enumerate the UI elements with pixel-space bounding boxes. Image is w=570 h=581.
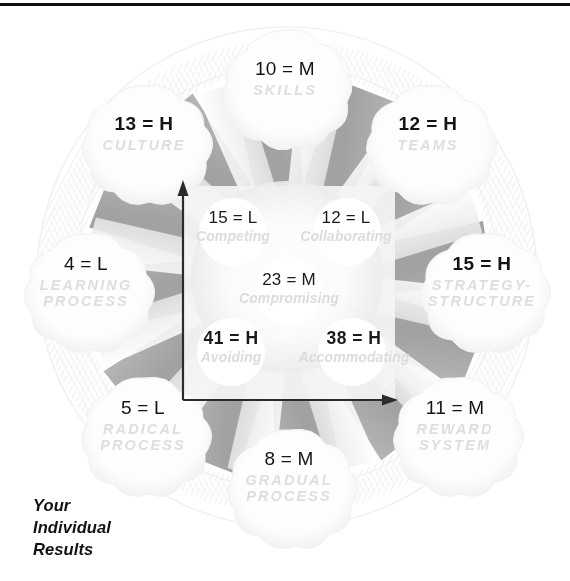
node-collaborating[interactable]: 12 = L Collaborating: [300, 208, 392, 244]
node-avoiding[interactable]: 41 = H Avoiding: [201, 328, 262, 365]
node-skills-label: SKILLS: [253, 83, 317, 99]
node-competing-label: Competing: [196, 229, 270, 244]
node-teams-label: TEAMS: [397, 138, 458, 154]
node-strategy-structure[interactable]: 15 = H STRATEGY- STRUCTURE: [419, 253, 545, 309]
node-teams-score: 12 = H: [397, 113, 458, 135]
caption-line-2: Individual: [33, 516, 111, 538]
node-compromising-label: Compromising: [239, 291, 339, 306]
node-compromising[interactable]: 23 = M Compromising: [239, 270, 339, 306]
caption-line-1: Your: [33, 494, 111, 516]
node-skills-score: 10 = M: [253, 58, 317, 80]
node-culture[interactable]: 13 = H CULTURE: [103, 113, 186, 154]
node-reward-system-score: 11 = M: [402, 397, 508, 419]
node-competing[interactable]: 15 = L Competing: [196, 208, 270, 244]
node-competing-score: 15 = L: [196, 208, 270, 228]
node-avoiding-score: 41 = H: [201, 328, 262, 349]
node-radical-process[interactable]: 5 = L RADICAL PROCESS: [88, 397, 198, 453]
node-strategy-structure-score: 15 = H: [419, 253, 545, 275]
node-learning-process-label: LEARNING PROCESS: [27, 278, 145, 309]
node-skills[interactable]: 10 = M SKILLS: [253, 58, 317, 99]
node-learning-process[interactable]: 4 = L LEARNING PROCESS: [27, 253, 145, 309]
node-radical-process-label: RADICAL PROCESS: [88, 422, 198, 453]
node-collaborating-score: 12 = L: [300, 208, 392, 228]
node-avoiding-label: Avoiding: [201, 350, 262, 365]
caption-line-3: Results: [33, 538, 111, 560]
node-culture-label: CULTURE: [103, 138, 186, 154]
node-collaborating-label: Collaborating: [300, 229, 392, 244]
node-accommodating[interactable]: 38 = H Accommodating: [299, 328, 410, 365]
node-reward-system[interactable]: 11 = M REWARD SYSTEM: [402, 397, 508, 453]
node-learning-process-score: 4 = L: [27, 253, 145, 275]
node-compromising-score: 23 = M: [239, 270, 339, 290]
node-culture-score: 13 = H: [103, 113, 186, 135]
node-strategy-structure-label: STRATEGY- STRUCTURE: [419, 278, 545, 309]
results-caption: Your Individual Results: [33, 494, 111, 560]
node-radical-process-score: 5 = L: [88, 397, 198, 419]
node-gradual-process-score: 8 = M: [234, 448, 344, 470]
node-gradual-process[interactable]: 8 = M GRADUAL PROCESS: [234, 448, 344, 504]
node-accommodating-score: 38 = H: [299, 328, 410, 349]
node-reward-system-label: REWARD SYSTEM: [402, 422, 508, 453]
node-gradual-process-label: GRADUAL PROCESS: [234, 473, 344, 504]
node-teams[interactable]: 12 = H TEAMS: [397, 113, 458, 154]
node-accommodating-label: Accommodating: [299, 350, 410, 365]
